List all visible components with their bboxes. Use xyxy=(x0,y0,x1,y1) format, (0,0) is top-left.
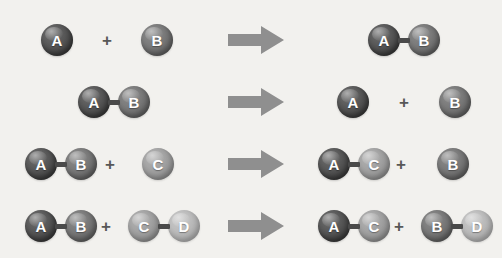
atom-b: B xyxy=(421,210,453,242)
atom-label: A xyxy=(348,95,359,110)
atom-a: A xyxy=(337,86,369,118)
bond xyxy=(348,162,360,167)
atom-b: B xyxy=(408,24,440,56)
reaction-row-decomposition: ABAB+ xyxy=(0,70,502,134)
reaction-row-single-replacement: ABC+ACB+ xyxy=(0,132,502,196)
bond xyxy=(398,38,410,43)
atom-label: A xyxy=(329,219,340,234)
products-side: ACB+ xyxy=(0,132,502,196)
products-side: AB+ xyxy=(0,70,502,134)
molecule-ab: AB xyxy=(368,24,440,56)
atom-label: A xyxy=(379,33,390,48)
molecule-ac: AC xyxy=(318,210,390,242)
atom-label: B xyxy=(432,219,443,234)
atom-label: A xyxy=(329,157,340,172)
molecule-b: B xyxy=(437,148,469,180)
plus-sign: + xyxy=(399,94,409,111)
plus-sign: + xyxy=(394,218,404,235)
reaction-row-synthesis: AB+AB xyxy=(0,8,502,72)
molecule-bd: BD xyxy=(421,210,493,242)
atom-label: C xyxy=(369,219,380,234)
atom-label: D xyxy=(472,219,483,234)
bond xyxy=(451,224,463,229)
reaction-types-diagram: AB+ABABAB+ABC+ACB+ABCD+ACBD+ xyxy=(0,0,502,258)
products-side: AB xyxy=(0,8,502,72)
molecule-b: B xyxy=(439,86,471,118)
atom-label: C xyxy=(369,157,380,172)
atom-a: A xyxy=(318,148,350,180)
atom-label: B xyxy=(419,33,430,48)
atom-a: A xyxy=(368,24,400,56)
atom-d: D xyxy=(461,210,493,242)
atom-b: B xyxy=(439,86,471,118)
products-side: ACBD+ xyxy=(0,194,502,258)
plus-sign: + xyxy=(396,156,406,173)
atom-c: C xyxy=(358,210,390,242)
molecule-ac: AC xyxy=(318,148,390,180)
atom-label: B xyxy=(450,95,461,110)
molecule-a: A xyxy=(337,86,369,118)
atom-c: C xyxy=(358,148,390,180)
atom-b: B xyxy=(437,148,469,180)
atom-a: A xyxy=(318,210,350,242)
bond xyxy=(348,224,360,229)
atom-label: B xyxy=(448,157,459,172)
reaction-row-double-replacement: ABCD+ACBD+ xyxy=(0,194,502,258)
